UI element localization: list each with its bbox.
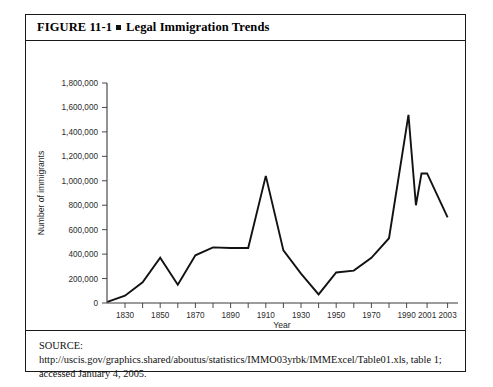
y-tick-label: 200,000 <box>68 275 98 284</box>
x-tick-label: 1970 <box>362 311 381 320</box>
y-tick-label: 1,600,000 <box>62 103 99 112</box>
source-note-text: SOURCE: http://uscis.gov/graphics.shared… <box>39 339 451 381</box>
x-axis-ticks: 1830185018701890191019301950197019902001… <box>116 303 457 320</box>
figure-title-bar: FIGURE 11-1Legal Immigration Trends <box>26 15 465 41</box>
x-tick-label: 1890 <box>221 311 240 320</box>
line-chart-svg: 0200,000400,000600,000800,0001,000,0001,… <box>26 41 465 330</box>
source-note-block: SOURCE: http://uscis.gov/graphics.shared… <box>26 330 465 372</box>
x-tick-label: 1870 <box>186 311 205 320</box>
y-tick-label: 600,000 <box>68 226 98 235</box>
figure-title: FIGURE 11-1Legal Immigration Trends <box>37 20 269 35</box>
y-axis-ticks: 0200,000400,000600,000800,0001,000,0001,… <box>62 79 107 308</box>
x-tick-label: 1930 <box>292 311 311 320</box>
figure-box: FIGURE 11-1Legal Immigration Trends 0200… <box>25 14 466 372</box>
x-tick-label: 1850 <box>151 311 170 320</box>
x-axis-title: Year <box>273 320 291 330</box>
figure-title-label: Legal Immigration Trends <box>126 20 269 34</box>
y-tick-label: 1,400,000 <box>62 128 99 137</box>
chart-plot-area: 0200,000400,000600,000800,0001,000,0001,… <box>26 41 465 330</box>
x-tick-label: 1950 <box>327 311 346 320</box>
x-tick-label: 1830 <box>116 311 135 320</box>
y-axis-title: Number of immigrants <box>36 151 46 236</box>
y-tick-label: 800,000 <box>68 201 98 210</box>
figure-number: FIGURE 11-1 <box>37 20 112 34</box>
y-tick-label: 400,000 <box>68 250 98 259</box>
x-tick-label: 1990 <box>397 311 416 320</box>
y-tick-label: 0 <box>93 299 98 308</box>
y-tick-label: 1,000,000 <box>62 177 99 186</box>
x-tick-label: 2001 <box>418 311 437 320</box>
x-tick-label: 1910 <box>257 311 276 320</box>
y-tick-label: 1,800,000 <box>62 79 99 88</box>
square-bullet-icon <box>116 25 121 30</box>
immigration-series-line <box>107 115 447 302</box>
y-tick-label: 1,200,000 <box>62 152 99 161</box>
x-tick-label: 2003 <box>438 311 457 320</box>
